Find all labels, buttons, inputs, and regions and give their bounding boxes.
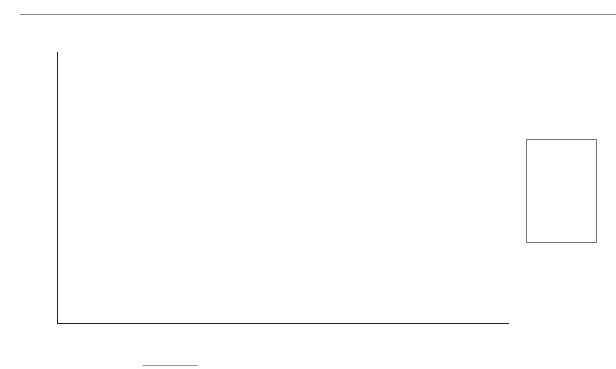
x-axis <box>57 323 509 324</box>
header-rule <box>20 14 616 15</box>
y-axis <box>57 52 58 324</box>
legend <box>526 139 597 243</box>
footnote-rule <box>143 365 198 366</box>
